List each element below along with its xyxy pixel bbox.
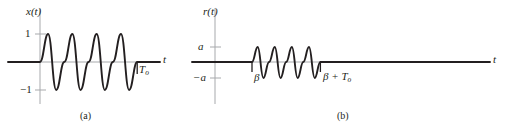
signal-figure: x(t) 1 −1 To t (a) r(t) a −a: [0, 0, 512, 133]
panel-a-xmark-To-sub: o: [145, 68, 149, 77]
panel-a-vertical-axis-label: x(t): [26, 6, 41, 17]
panel-a-ytick-label-1: 1: [25, 28, 31, 39]
panel-b-caption: (b): [337, 110, 349, 121]
panel-a-xmark-label-To: To: [139, 64, 149, 75]
panel-b-plot: [190, 0, 512, 133]
panel-b-xmark-label-beta-plus-To: β + To: [323, 71, 351, 82]
panel-a-caption: (a): [80, 110, 91, 121]
panel-a: x(t) 1 −1 To t (a): [0, 0, 190, 133]
panel-b-ytick-label-a: a: [198, 41, 204, 52]
panel-b-ytick-label-minus-a: −a: [193, 72, 206, 83]
panel-b-xmark-beta-plus-To-base: β + T: [323, 70, 348, 82]
panel-a-plot: [0, 0, 190, 133]
panel-b-vertical-axis-label: r(t): [203, 6, 218, 17]
panel-a-ytick-label-minus-1: −1: [20, 84, 32, 95]
panel-a-horizontal-axis-label: t: [163, 54, 166, 65]
panel-b-xmark-label-beta: β: [254, 72, 259, 83]
panel-b-horizontal-axis-label: t: [493, 54, 496, 65]
panel-b-xmark-beta-plus-To-sub: o: [348, 75, 352, 84]
panel-b: r(t) a −a β β + To t (b): [190, 0, 512, 133]
